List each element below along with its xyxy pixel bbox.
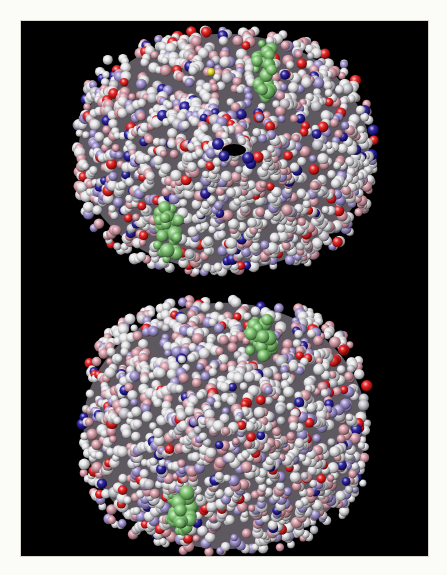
atom-sphere bbox=[83, 202, 94, 213]
molecule-top-view bbox=[72, 25, 379, 277]
atom-sphere bbox=[260, 181, 267, 188]
atom-sphere bbox=[206, 447, 217, 458]
heme-group-atom bbox=[251, 55, 263, 67]
atom-sphere bbox=[307, 52, 314, 59]
atom-sphere bbox=[213, 263, 222, 272]
atom-sphere bbox=[337, 434, 346, 443]
atom-sphere bbox=[119, 398, 129, 408]
atom-sphere bbox=[148, 310, 155, 317]
atom-sphere bbox=[125, 178, 134, 187]
heme-group-atom bbox=[257, 84, 268, 95]
atom-sphere bbox=[185, 78, 195, 88]
atom-sphere bbox=[131, 432, 141, 442]
atom-sphere bbox=[240, 382, 248, 390]
atom-sphere bbox=[159, 138, 167, 146]
atom-sphere bbox=[246, 432, 256, 442]
atom-sphere bbox=[151, 51, 159, 59]
atom-sphere bbox=[196, 363, 204, 371]
atom-sphere bbox=[309, 155, 316, 162]
atom-sphere bbox=[256, 395, 266, 405]
atom-sphere bbox=[280, 70, 290, 80]
atom-sphere bbox=[354, 369, 365, 380]
atom-sphere bbox=[223, 474, 230, 481]
atom-sphere bbox=[133, 419, 142, 428]
atom-sphere bbox=[94, 132, 104, 142]
atom-sphere bbox=[160, 150, 167, 157]
atom-sphere bbox=[295, 500, 304, 509]
atom-sphere bbox=[331, 178, 341, 188]
atom-sphere bbox=[199, 433, 207, 441]
heme-group-atom bbox=[245, 346, 255, 356]
atom-sphere bbox=[321, 389, 329, 397]
atom-sphere bbox=[312, 139, 323, 150]
heme-group-atom bbox=[245, 327, 258, 340]
atom-sphere bbox=[341, 186, 351, 196]
atom-sphere bbox=[290, 472, 301, 483]
atom-sphere bbox=[161, 57, 168, 64]
atom-sphere bbox=[166, 101, 174, 109]
atom-sphere bbox=[102, 71, 110, 79]
atom-sphere bbox=[236, 86, 244, 94]
atom-sphere bbox=[120, 78, 128, 86]
atom-sphere bbox=[219, 56, 230, 67]
atom-sphere bbox=[137, 99, 146, 108]
atom-sphere bbox=[83, 103, 91, 111]
atom-sphere bbox=[241, 461, 253, 473]
atom-sphere bbox=[283, 386, 294, 397]
atom-sphere bbox=[265, 121, 275, 131]
atom-sphere bbox=[346, 414, 354, 422]
atom-sphere bbox=[128, 93, 135, 100]
atom-sphere bbox=[286, 61, 294, 69]
atom-sphere bbox=[142, 411, 153, 422]
atom-sphere bbox=[327, 474, 334, 481]
atom-sphere bbox=[130, 398, 138, 406]
atom-sphere bbox=[275, 405, 285, 415]
atom-sphere bbox=[312, 129, 322, 139]
atom-sphere bbox=[164, 349, 171, 356]
atom-sphere bbox=[140, 375, 149, 384]
atom-sphere bbox=[153, 156, 163, 166]
atom-sphere bbox=[79, 459, 90, 470]
atom-sphere bbox=[165, 444, 175, 454]
atom-sphere bbox=[261, 163, 269, 171]
atom-sphere bbox=[215, 472, 223, 480]
atom-sphere bbox=[92, 357, 102, 367]
atom-sphere bbox=[150, 489, 160, 499]
atom-sphere bbox=[175, 385, 184, 394]
atom-sphere bbox=[345, 486, 353, 494]
atom-sphere bbox=[215, 441, 224, 450]
sulfur-atom bbox=[207, 68, 215, 76]
atom-sphere bbox=[82, 131, 89, 138]
atom-sphere bbox=[336, 491, 346, 501]
atom-sphere bbox=[347, 365, 355, 373]
atom-sphere bbox=[294, 397, 304, 407]
heme-group-atom bbox=[180, 485, 195, 500]
atom-sphere bbox=[115, 151, 123, 159]
atom-sphere bbox=[327, 170, 336, 179]
atom-sphere bbox=[361, 380, 372, 391]
atom-sphere bbox=[338, 424, 349, 435]
atom-sphere bbox=[337, 365, 346, 374]
atom-sphere bbox=[193, 268, 200, 275]
atom-sphere bbox=[274, 303, 284, 313]
atom-sphere bbox=[214, 323, 224, 333]
atom-sphere bbox=[270, 233, 280, 243]
atom-sphere bbox=[178, 356, 186, 364]
atom-sphere bbox=[281, 204, 292, 215]
atom-sphere bbox=[76, 130, 83, 137]
heme-group-atom bbox=[172, 232, 182, 242]
atom-sphere bbox=[242, 529, 252, 539]
atom-sphere bbox=[338, 144, 348, 154]
atom-sphere bbox=[86, 390, 95, 399]
atom-sphere bbox=[340, 61, 348, 69]
atom-sphere bbox=[177, 459, 185, 467]
atom-sphere bbox=[341, 122, 349, 130]
atom-sphere bbox=[156, 368, 166, 378]
atom-sphere bbox=[188, 66, 197, 75]
atom-sphere bbox=[113, 197, 123, 207]
atom-sphere bbox=[145, 171, 155, 181]
atom-sphere bbox=[97, 479, 107, 489]
atom-sphere bbox=[333, 162, 341, 170]
atom-sphere bbox=[111, 212, 119, 220]
atom-sphere bbox=[275, 106, 286, 117]
